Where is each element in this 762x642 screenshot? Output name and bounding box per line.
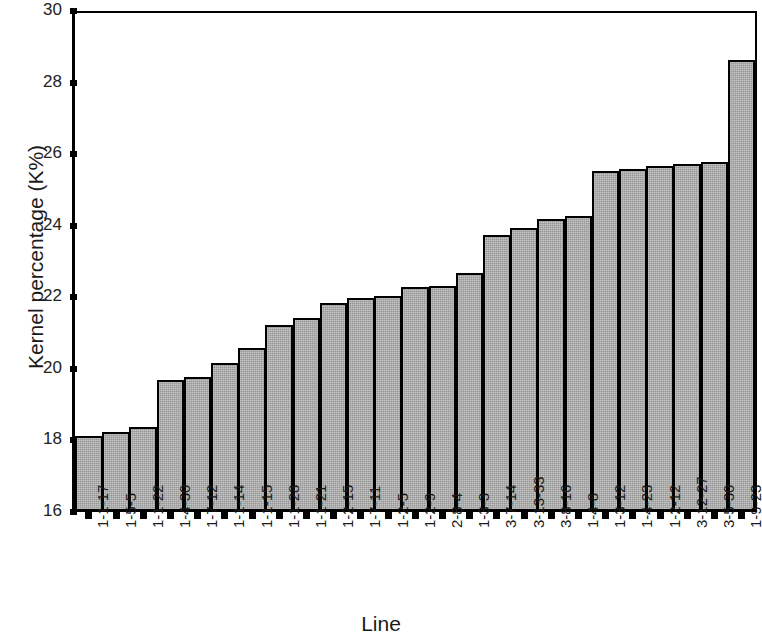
bar-rect: [401, 287, 429, 511]
bar-chart: Kernel percentage (K%) 1618202224262830 …: [0, 0, 762, 642]
y-tick-label: 20: [12, 358, 62, 378]
x-tick-mark: [85, 512, 92, 519]
x-tick-label: 1-1-17: [94, 485, 111, 528]
x-tick-mark: [303, 512, 310, 519]
x-tick-mark: [711, 512, 718, 519]
x-tick-label: 1-2-5: [394, 493, 411, 528]
x-tick-label: 1-3-3: [475, 493, 492, 528]
x-tick-label: 3-7-14: [502, 485, 519, 528]
x-tick-label: 1-4-30: [176, 485, 193, 528]
x-tick-mark: [167, 512, 174, 519]
x-tick-mark: [548, 512, 555, 519]
x-tick-mark: [194, 512, 201, 519]
x-tick-mark: [412, 512, 419, 519]
x-tick-label: 2-8-4: [448, 493, 465, 528]
bar-rect: [320, 303, 348, 511]
x-tick-mark: [140, 512, 147, 519]
bar-rect: [510, 228, 538, 511]
x-tick-label: 3-8-16: [557, 485, 574, 528]
bar-rect: [619, 169, 647, 511]
x-tick-label: 3-5-30: [720, 485, 737, 528]
bar-rect: [728, 60, 756, 511]
x-axis-title: Line: [0, 612, 762, 636]
x-tick-mark: [657, 512, 664, 519]
bar-rect: [701, 162, 729, 511]
x-tick-label: 1-3-12: [611, 485, 628, 528]
y-tick-label: 30: [12, 0, 62, 20]
x-tick-label: 1-2-9: [421, 493, 438, 528]
bar-rect: [265, 325, 293, 511]
bar-series: [75, 13, 755, 511]
x-tick-label: 1-4-23: [638, 485, 655, 528]
y-tick-label: 26: [12, 143, 62, 163]
x-tick-label: 1-1-22: [149, 485, 166, 528]
bar-rect: [592, 171, 620, 511]
bar-rect: [429, 286, 457, 511]
x-tick-mark: [276, 512, 283, 519]
bar-rect: [374, 296, 402, 511]
x-tick-label: 3-12-27: [693, 476, 710, 528]
x-tick-label: 1-1-15: [258, 485, 275, 528]
x-tick-mark: [602, 512, 609, 519]
x-tick-mark: [439, 512, 446, 519]
x-tick-mark: [385, 512, 392, 519]
x-tick-mark: [221, 512, 228, 519]
x-tick-mark: [629, 512, 636, 519]
x-tick-label: 1-9-23: [747, 485, 762, 528]
y-tick-label: 18: [12, 429, 62, 449]
bar-rect: [483, 235, 511, 511]
x-tick-label: 1-1-14: [230, 485, 247, 528]
x-tick-mark: [684, 512, 691, 519]
bar-rect: [293, 318, 321, 511]
x-tick-mark: [249, 512, 256, 519]
y-tick-label: 24: [12, 215, 62, 235]
x-tick-mark: [357, 512, 364, 519]
y-tick-label: 28: [12, 72, 62, 92]
x-tick-label: 1-5-5: [122, 493, 139, 528]
x-tick-mark: [113, 512, 120, 519]
bar-rect: [646, 166, 674, 511]
bar-rect: [537, 219, 565, 511]
x-tick-label: 1-1-21: [312, 485, 329, 528]
bar-rect: [456, 273, 484, 511]
x-tick-label: 1-2-12: [666, 485, 683, 528]
y-tick-label: 16: [12, 501, 62, 521]
x-tick-label: 1-2-15: [339, 485, 356, 528]
bar-rect: [673, 164, 701, 511]
x-tick-label: 3-13-33: [530, 476, 547, 528]
x-tick-mark: [575, 512, 582, 519]
x-tick-mark: [330, 512, 337, 519]
x-tick-mark: [738, 512, 745, 519]
x-tick-mark: [521, 512, 528, 519]
bar-rect: [565, 216, 593, 511]
x-tick-label: 1-1-28: [285, 485, 302, 528]
x-tick-label: 1-7-11: [366, 486, 383, 528]
x-tick-label: 1-7-12: [203, 485, 220, 528]
x-tick-mark: [493, 512, 500, 519]
x-tick-mark: [466, 512, 473, 519]
y-tick-label: 22: [12, 286, 62, 306]
x-tick-label: 1-4-8: [584, 493, 601, 528]
y-axis-title: Kernel percentage (K%): [24, 57, 48, 457]
bar-rect: [347, 298, 375, 511]
